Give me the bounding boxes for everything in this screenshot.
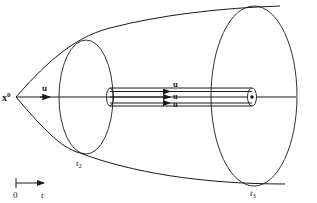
tube-center-dot bbox=[250, 95, 254, 99]
tube-diagram: x0 u u u u t2 t3 0 t bbox=[0, 0, 317, 203]
t3-label: t3 bbox=[250, 188, 256, 199]
tube-u-label-1: u bbox=[173, 79, 178, 89]
t2-label: t2 bbox=[76, 158, 82, 169]
lower-envelope-curve bbox=[16, 97, 285, 184]
time-axis-t-label: t bbox=[41, 190, 44, 200]
tube-u-label-3: u bbox=[173, 99, 178, 109]
main-u-label: u bbox=[42, 83, 47, 93]
upper-envelope-curve bbox=[16, 6, 280, 97]
time-axis-zero-label: 0 bbox=[13, 190, 18, 200]
origin-label: x0 bbox=[2, 91, 11, 103]
